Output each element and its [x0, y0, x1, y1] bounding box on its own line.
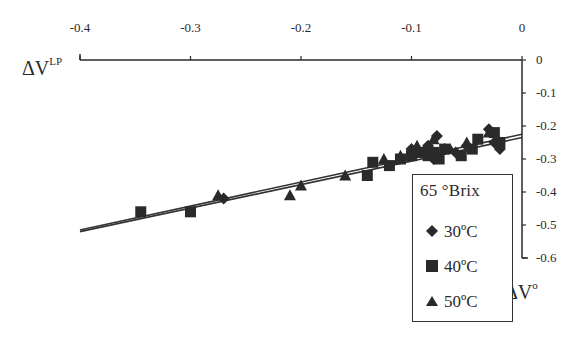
y-tick-label: -0.3 [536, 151, 557, 166]
x-tick-label: -0.1 [401, 20, 422, 35]
x-tick-label: -0.3 [180, 20, 201, 35]
data-point-40c [185, 206, 196, 217]
data-point-40c [494, 137, 505, 148]
data-point-40c [456, 150, 467, 161]
diamond-marker-icon [425, 222, 439, 242]
legend-item-30c: 30ºC [425, 222, 478, 242]
y-tick-label: -0.1 [536, 85, 557, 100]
legend-item-40c: 40ºC [425, 257, 478, 277]
legend-title: 65 °Brix [420, 181, 480, 201]
data-point-50c [378, 153, 390, 164]
x-tick-label: -0.2 [291, 20, 312, 35]
triangle-marker-icon [425, 292, 439, 312]
y-tick-label: -0.5 [536, 217, 557, 232]
y-tick-label: -0.6 [536, 250, 557, 265]
x-tick-label: -0.4 [70, 20, 91, 35]
legend: 65 °Brix 30ºC 40ºC 50ºC [412, 174, 513, 322]
y-axis-label: ΔVLP [22, 55, 62, 80]
square-marker-icon [425, 257, 439, 277]
data-point-40c [135, 206, 146, 217]
data-point-50c [284, 189, 296, 200]
data-point-40c [434, 154, 445, 165]
y-tick-label: -0.4 [536, 184, 557, 199]
data-point-40c [362, 170, 373, 181]
y-tick-label: -0.2 [536, 118, 557, 133]
legend-item-50c: 50ºC [425, 292, 478, 312]
data-point-40c [406, 150, 417, 161]
y-tick-label: 0 [536, 52, 543, 67]
data-point-40c [472, 134, 483, 145]
data-point-40c [367, 157, 378, 168]
x-tick-label: 0 [519, 20, 526, 35]
data-point-50c [461, 137, 473, 148]
